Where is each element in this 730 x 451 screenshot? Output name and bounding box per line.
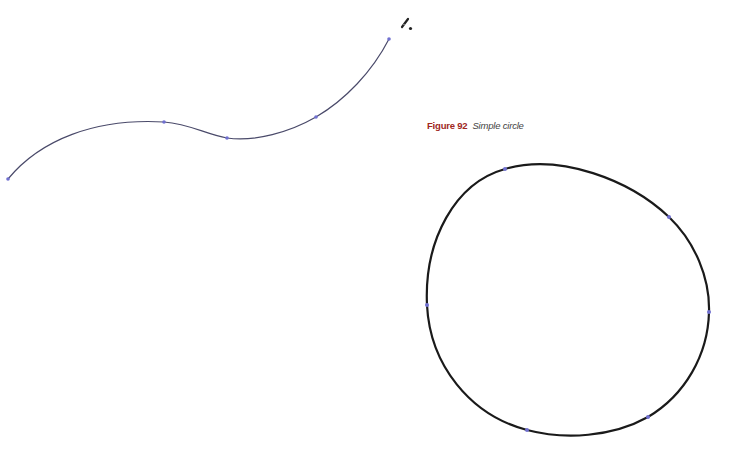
anchor-point[interactable] [314, 115, 318, 119]
closed-circle-path[interactable] [425, 164, 711, 435]
anchor-point[interactable] [162, 120, 166, 124]
anchor-point[interactable] [425, 303, 429, 307]
anchor-point[interactable] [707, 310, 711, 314]
anchor-point[interactable] [525, 428, 529, 432]
anchor-point[interactable] [667, 215, 671, 219]
anchor-point[interactable] [387, 37, 391, 41]
open-bezier-path[interactable] [6, 37, 391, 181]
anchor-point[interactable] [6, 177, 10, 181]
figure-title: Simple circle [472, 120, 523, 131]
figure-label: Figure 92 [427, 120, 467, 131]
pen-tool-icon [402, 19, 412, 30]
anchor-point[interactable] [646, 415, 650, 419]
figure-caption: Figure 92Simple circle [427, 120, 524, 131]
drawing-canvas[interactable] [0, 0, 730, 451]
anchor-point[interactable] [225, 136, 229, 140]
anchor-point[interactable] [503, 167, 507, 171]
